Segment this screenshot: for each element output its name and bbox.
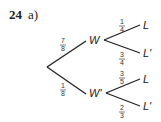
prob-wp-num: 1 (61, 82, 65, 89)
leaf-w-l: L (143, 19, 149, 31)
branch-root-wp (47, 67, 86, 94)
prob-w-num: 7 (61, 37, 65, 44)
prob-w-lp-num: 3 (120, 51, 124, 58)
leaf-wp-l: L (143, 73, 149, 85)
prob-wp-l-num: 3 (120, 70, 124, 77)
branch-root-w (47, 41, 86, 67)
prob-w-l-den: 4 (120, 26, 124, 33)
node-w: W (89, 34, 101, 46)
prob-wp-l-den: 5 (120, 78, 124, 85)
node-wp: W' (89, 87, 102, 99)
prob-wp-lp-num: 2 (120, 104, 124, 111)
probability-tree-diagram: 7 8 1 8 W W' 1 4 3 4 3 5 2 3 L L' L L' (0, 0, 161, 122)
prob-wp-den: 8 (61, 90, 65, 97)
leaf-w-lp: L' (143, 47, 152, 59)
prob-w-den: 8 (61, 45, 65, 52)
prob-w-lp-den: 4 (120, 59, 124, 66)
prob-w-l-num: 1 (120, 18, 124, 25)
leaf-wp-lp: L' (143, 100, 152, 112)
prob-wp-lp-den: 3 (120, 112, 124, 119)
